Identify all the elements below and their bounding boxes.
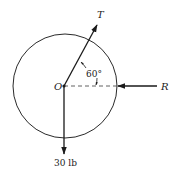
force-R-label: R (160, 81, 169, 92)
origin-point (62, 84, 65, 87)
origin-label: O (54, 81, 62, 92)
angle-label: 60° (86, 69, 102, 79)
force-diagram: O T R 30 lb 60° (0, 0, 181, 175)
angle-arc-upper (81, 62, 86, 68)
force-T-label: T (97, 9, 105, 20)
weight-label: 30 lb (54, 158, 77, 168)
angle-arc-lower (96, 78, 97, 85)
